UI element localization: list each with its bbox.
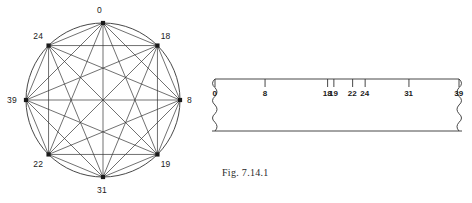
ruler-ticks	[215, 79, 459, 87]
graph-vertex-dot	[155, 152, 159, 156]
graph-vertex-label-39: 39	[7, 96, 17, 105]
graph-vertex-dot	[101, 175, 105, 179]
graph-edge	[49, 100, 180, 154]
graph-vertex-label-24: 24	[33, 32, 43, 41]
ruler-torn-edge-right	[457, 79, 462, 131]
graph-vertex-dot	[46, 43, 50, 47]
figure-caption: Fig. 7.14.1	[222, 167, 269, 178]
ruler-tick-label-0: 0	[213, 90, 217, 98]
graph-vertex-dot	[24, 98, 28, 102]
figure-7-14-1: 01881931223924 08181922243139 Fig. 7.14.…	[0, 0, 472, 203]
graph-edge	[26, 100, 157, 154]
graph-vertex-label-31: 31	[97, 186, 107, 195]
graph-edge	[49, 46, 103, 177]
graph-vertex-label-22: 22	[33, 160, 43, 169]
ruler-tick-label-24: 24	[360, 90, 369, 98]
ruler-tick-label-19: 19	[329, 90, 338, 98]
graph-edge	[103, 23, 157, 154]
ruler-tick-label-31: 31	[404, 90, 413, 98]
graph-vertex-dot	[101, 21, 105, 25]
graph-edge	[26, 46, 157, 100]
ruler-tick-label-22: 22	[348, 90, 357, 98]
ruler-tick-label-39: 39	[454, 90, 463, 98]
graph-edge	[49, 46, 180, 100]
graph-vertex-dot	[46, 152, 50, 156]
graph-vertex-label-8: 8	[187, 96, 192, 105]
graph-vertex-label-19: 19	[161, 160, 171, 169]
ruler-tick-label-8: 8	[263, 90, 267, 98]
graph-edge	[49, 23, 103, 154]
graph-edge	[103, 46, 157, 177]
graph-vertex-label-18: 18	[161, 32, 171, 41]
graph-vertex-label-0: 0	[97, 6, 102, 15]
graph-vertex-dot	[155, 43, 159, 47]
circular-graph-diagram	[0, 0, 215, 203]
graph-vertex-dot	[178, 98, 182, 102]
